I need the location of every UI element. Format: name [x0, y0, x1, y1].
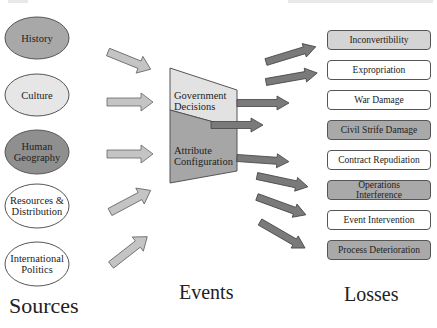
loss-text: Process Deterioration — [338, 245, 420, 255]
column-title-sources: Sources — [9, 295, 79, 317]
arrow-icon — [237, 96, 289, 110]
loss-text-line1: Operations — [358, 180, 400, 190]
loss-text: Event Intervention — [344, 215, 415, 225]
arrow-icon — [107, 145, 153, 163]
source-label-history: History — [5, 27, 69, 49]
loss-box-operations-interference: Operations Interference — [327, 180, 431, 200]
event-label-government-decisions: Government Decisions — [174, 90, 227, 112]
loss-box-process-deterioration: Process Deterioration — [327, 240, 431, 260]
source-arrows — [105, 44, 155, 272]
arrow-icon — [107, 93, 153, 111]
source-text-line2: Distribution — [12, 206, 63, 217]
loss-box-inconvertibility: Inconvertibility — [327, 30, 431, 50]
loss-text: Contract Repudiation — [338, 155, 420, 165]
arrow-icon — [257, 216, 309, 254]
source-label-resources-distribution: Resources & Distribution — [5, 194, 69, 218]
loss-box-war-damage: War Damage — [327, 90, 431, 110]
column-title-losses: Losses — [344, 283, 398, 305]
source-label-culture: Culture — [5, 84, 69, 106]
source-text-line1: Resources & — [10, 195, 64, 206]
loss-text: Civil Strife Damage — [341, 125, 418, 135]
loss-box-contract-repudiation: Contract Repudiation — [327, 150, 431, 170]
column-title-events: Events — [179, 281, 233, 303]
source-text-line1: International — [10, 253, 64, 264]
arrow-icon — [237, 151, 290, 169]
source-text: History — [21, 33, 53, 44]
event-label-attribute-configuration: Attribute Configuration — [174, 145, 233, 167]
loss-text: Inconvertibility — [349, 35, 408, 45]
source-text-line2: Politics — [21, 264, 53, 275]
source-text: Culture — [21, 90, 53, 101]
event-text-line1: Attribute — [174, 145, 233, 156]
source-text-line2: Geography — [14, 152, 61, 163]
event-text-line1: Government — [174, 90, 227, 101]
arrow-icon — [265, 66, 319, 89]
event-text-line2: Decisions — [174, 101, 227, 112]
loss-text: Expropriation — [353, 65, 406, 75]
loss-text-line2: Interference — [356, 190, 402, 200]
source-label-international-politics: International Politics — [5, 252, 69, 276]
loss-box-expropriation: Expropriation — [327, 60, 431, 80]
arrow-icon — [106, 182, 155, 219]
event-text-line2: Configuration — [174, 156, 233, 167]
arrow-icon — [264, 40, 318, 69]
source-label-human-geography: Human Geography — [5, 140, 69, 164]
arrow-icon — [105, 44, 154, 78]
loss-box-event-intervention: Event Intervention — [327, 210, 431, 230]
arrow-icon — [255, 190, 309, 221]
loss-box-civil-strife-damage: Civil Strife Damage — [327, 120, 431, 140]
arrow-icon — [256, 169, 310, 194]
arrow-icon — [105, 230, 152, 273]
source-text-line1: Human — [22, 141, 53, 152]
loss-text: War Damage — [354, 95, 404, 105]
